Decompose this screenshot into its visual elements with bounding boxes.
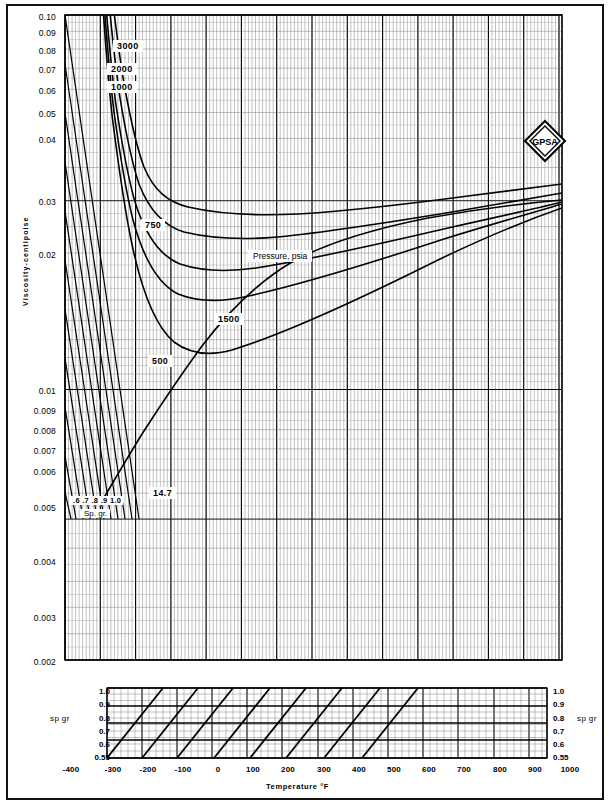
xtick-0: 0 <box>198 765 238 774</box>
curve-label-750: 750 <box>141 219 165 231</box>
ytick-0.09: 0.09 <box>14 28 56 38</box>
nomo-sgtick-right-0.9: 0.9 <box>553 700 579 709</box>
ytick-0.009: 0.009 <box>14 406 56 416</box>
xtick-500: 500 <box>374 765 414 774</box>
main-plot-grid <box>65 15 562 660</box>
nomo-sgtick-left-0.9: 0.9 <box>84 700 110 709</box>
curve-label-14.7: 14.7 <box>149 487 176 499</box>
ytick-0.05: 0.05 <box>14 109 56 119</box>
curve-label-2000: 2000 <box>107 63 137 75</box>
xtick--300: -300 <box>93 765 133 774</box>
figure-frame: GPSA 0.10 0.09 0.08 0.07 0.06 0.05 0.04 … <box>6 4 604 800</box>
ytick-0.002: 0.002 <box>14 657 56 667</box>
ytick-0.005: 0.005 <box>14 503 56 513</box>
xtick--400: -400 <box>51 765 91 774</box>
pressure-caption: Pressure, psia <box>248 250 312 262</box>
nomo-sgtick-right-0.7: 0.7 <box>553 727 579 736</box>
spgr-nomograph <box>107 688 547 758</box>
ytick-0.007: 0.007 <box>14 446 56 456</box>
xtick--100: -100 <box>163 765 203 774</box>
ytick-0.004: 0.004 <box>14 557 56 567</box>
xtick-700: 700 <box>444 765 484 774</box>
xtick--200: -200 <box>128 765 168 774</box>
ytick-0.10: 0.10 <box>14 12 56 22</box>
xtick-800: 800 <box>480 765 520 774</box>
ytick-0.008: 0.008 <box>14 426 56 436</box>
nomo-sgtick-right-1.0: 1.0 <box>553 687 579 696</box>
ytick-0.06: 0.06 <box>14 86 56 96</box>
nomo-sgtick-left-0.8: 0.8 <box>84 714 110 723</box>
svg-text:GPSA: GPSA <box>532 137 558 147</box>
curve-label-500: 500 <box>148 355 172 367</box>
nomo-sgtick-left-0.7: 0.7 <box>84 727 110 736</box>
nomo-sgtick-left-1.0: 1.0 <box>84 687 110 696</box>
xtick-1000: 1000 <box>550 765 590 774</box>
spgr-caption: Sp. gr. <box>81 509 110 518</box>
nomo-sgtick-left-0.6: 0.6 <box>84 740 110 749</box>
nomo-sgtick-right-0.6: 0.6 <box>553 740 579 749</box>
xtick-400: 400 <box>339 765 379 774</box>
ytick-0.04: 0.04 <box>14 135 56 145</box>
nomo-sgtick-right-0.8: 0.8 <box>553 714 579 723</box>
nomo-sgtick-right-0.55: 0.55 <box>553 753 579 762</box>
ytick-0.03: 0.03 <box>14 197 56 207</box>
ytick-0.07: 0.07 <box>14 65 56 75</box>
ytick-0.08: 0.08 <box>14 46 56 56</box>
curve-label-1500: 1500 <box>214 313 244 325</box>
viscosity-chart <box>8 6 602 798</box>
spgr-label-right: sp gr <box>577 714 597 723</box>
gpsa-logo: GPSA <box>523 119 567 163</box>
ytick-0.02: 0.02 <box>14 250 56 260</box>
curve-label-1000: 1000 <box>107 81 137 93</box>
ytick-0.006: 0.006 <box>14 467 56 477</box>
ytick-0.003: 0.003 <box>14 613 56 623</box>
xtick-200: 200 <box>268 765 308 774</box>
spgr-label-left: sp gr <box>50 714 70 723</box>
curve-label-3000: 3000 <box>113 40 143 52</box>
x-axis-label: Temperature °F <box>266 782 329 791</box>
xtick-100: 100 <box>233 765 273 774</box>
xtick-600: 600 <box>409 765 449 774</box>
xtick-900: 900 <box>515 765 555 774</box>
xtick-300: 300 <box>304 765 344 774</box>
figure-page: GPSA 0.10 0.09 0.08 0.07 0.06 0.05 0.04 … <box>0 0 612 806</box>
spgr-scale-labels: .6 .7 .8 .9 1.0 <box>71 496 123 505</box>
y-axis-label: Viscosity-centipoise <box>22 216 29 306</box>
ytick-0.01: 0.01 <box>14 386 56 396</box>
nomo-sgtick-left-0.55: 0.55 <box>78 753 110 762</box>
